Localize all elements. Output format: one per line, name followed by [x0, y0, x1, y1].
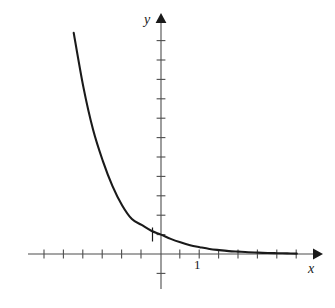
- x-tick-label-one: 1: [194, 258, 201, 271]
- exponential-curve: [74, 33, 297, 254]
- x-axis-label: x: [308, 262, 314, 276]
- y-axis: [153, 13, 167, 289]
- graph-figure: y x 1: [0, 0, 335, 308]
- y-axis-arrowhead: [156, 13, 167, 23]
- plot-canvas: [0, 0, 335, 308]
- y-axis-label: y: [144, 13, 150, 27]
- x-axis-arrowhead: [313, 249, 323, 260]
